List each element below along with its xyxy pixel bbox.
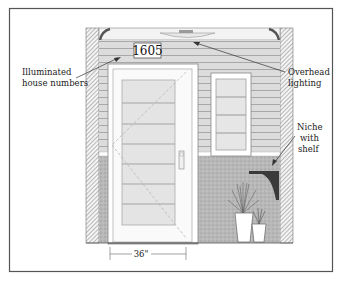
- callout-niche-line2: with: [300, 133, 319, 143]
- door-glass: [122, 80, 175, 225]
- door-width-label: 36": [134, 249, 149, 259]
- right-wall: [280, 28, 293, 243]
- callout-niche-line1: Niche: [297, 122, 322, 132]
- callout-niche-line3: shelf: [298, 144, 320, 154]
- house-number: 1605: [132, 44, 163, 58]
- overhead-light-base: [179, 30, 193, 33]
- callout-house-numbers-line1: Illuminated: [22, 67, 72, 77]
- entry-elevation-diagram: 1605 36" Illuminated house numbers: [0, 0, 342, 282]
- callout-house-numbers-line2: house numbers: [22, 78, 88, 88]
- left-wall: [86, 28, 99, 243]
- callout-overhead-lighting-line2: lighting: [288, 78, 322, 88]
- door-handle-knob: [180, 153, 183, 156]
- niche-shelf: [249, 171, 279, 174]
- callout-overhead-lighting-line1: Overhead: [288, 67, 330, 77]
